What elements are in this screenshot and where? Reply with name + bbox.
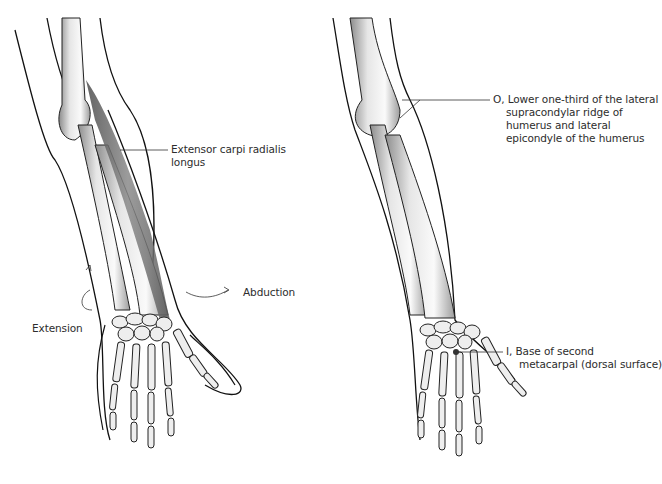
origin-line3: humerus and lateral [493,119,658,132]
insertion-line1: I, Base of second [506,345,594,357]
muscle-label-line2: longus [171,156,205,168]
origin-line2: supracondylar ridge of [493,106,658,119]
insertion-label: I, Base of second metacarpal (dorsal sur… [506,345,662,371]
origin-line1: O, Lower one-third of the lateral [493,93,658,105]
right-arm-illustration [333,18,527,456]
muscle-label-line1: Extensor carpi radialis [171,143,286,155]
left-arm-illustration [15,18,241,448]
extension-label: Extension [32,322,83,335]
origin-label: O, Lower one-third of the lateral suprac… [493,93,658,145]
insertion-line2: metacarpal (dorsal surface) [506,358,662,371]
muscle-name-label: Extensor carpi radialis longus [171,143,286,169]
abduction-label: Abduction [243,286,295,299]
origin-line4: epicondyle of the humerus [493,132,658,145]
